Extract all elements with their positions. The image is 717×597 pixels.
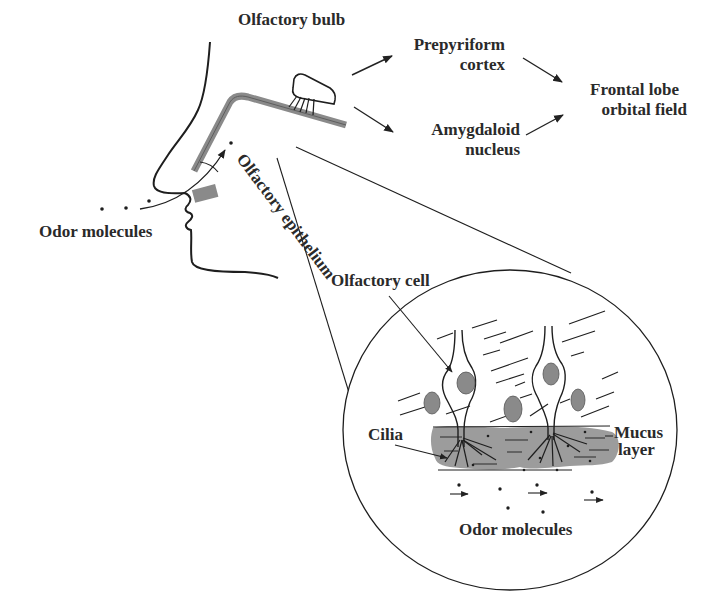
frontal-line1: Frontal lobe (575, 80, 687, 100)
label-frontal-lobe: Frontal lobe orbital field (575, 80, 687, 120)
label-odor-molecules-outer: Odor molecules (39, 222, 152, 242)
odor-dots-outer (100, 141, 233, 211)
frontal-line2: orbital field (575, 100, 687, 120)
amygdaloid-line1: Amygdaloid (405, 120, 520, 140)
label-mucus-layer: Mucus layer (614, 424, 663, 458)
label-cilia: Cilia (368, 425, 403, 445)
label-olfactory-cell: Olfactory cell (331, 271, 430, 291)
label-odor-molecules-inner: Odor molecules (459, 520, 572, 540)
inhale-arrow (140, 150, 225, 209)
face-profile (154, 42, 278, 278)
mucus-line2: layer (614, 441, 663, 458)
nostril-block (192, 184, 219, 203)
mucus-layer (431, 426, 619, 469)
olfactory-diagram: Olfactory bulb Prepyriform cortex Amygda… (0, 0, 717, 597)
amygdaloid-line2: nucleus (405, 140, 520, 160)
label-prepyriform-cortex: Prepyriform cortex (405, 35, 505, 75)
mucus-line1: Mucus (614, 424, 663, 441)
label-amygdaloid-nucleus: Amygdaloid nucleus (405, 120, 520, 160)
prepyriform-line2: cortex (405, 55, 505, 75)
prepyriform-line1: Prepyriform (405, 35, 505, 55)
label-olfactory-bulb: Olfactory bulb (238, 10, 345, 30)
